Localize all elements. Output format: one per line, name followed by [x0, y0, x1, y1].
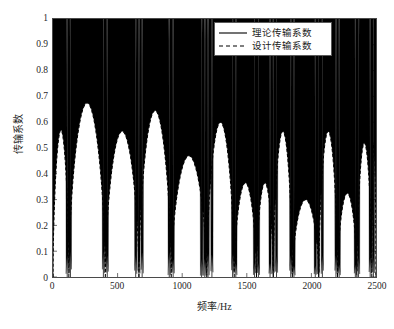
chart-legend: 理论传输系数 设计传输系数 [214, 22, 332, 56]
chart-canvas [53, 19, 376, 277]
legend-label-theory: 理论传输系数 [248, 27, 312, 39]
y-tick-label: 0.3 [4, 195, 48, 205]
legend-solid-line-icon [218, 27, 248, 39]
plot-area [52, 18, 377, 278]
x-tick-label: 2500 [352, 281, 394, 292]
y-tick-label: 0.9 [4, 39, 48, 49]
y-axis-title: 传输系数 [10, 89, 25, 179]
series-theory-line [53, 19, 376, 277]
x-axis-tick-labels: 05001000150020002500 [52, 281, 377, 295]
x-tick-label: 1000 [157, 281, 207, 292]
y-tick-label: 0.1 [4, 247, 48, 257]
x-tick-label: 500 [92, 281, 142, 292]
legend-dashed-line-icon [218, 40, 248, 52]
x-axis-title: 频率/Hz [52, 298, 377, 313]
y-tick-label: 0.8 [4, 65, 48, 75]
legend-item-theory: 理论传输系数 [218, 26, 327, 39]
x-tick-label: 0 [27, 281, 77, 292]
y-tick-label: 1 [4, 13, 48, 23]
x-tick-label: 1500 [222, 281, 272, 292]
x-tick-label: 2000 [287, 281, 337, 292]
y-tick-label: 0.2 [4, 221, 48, 231]
legend-label-design: 设计传输系数 [248, 40, 312, 52]
theory-curve [53, 19, 376, 277]
transmission-coefficient-chart: 00.10.20.30.40.50.60.70.80.91 传输系数 05001… [0, 0, 394, 329]
legend-item-design: 设计传输系数 [218, 39, 327, 52]
